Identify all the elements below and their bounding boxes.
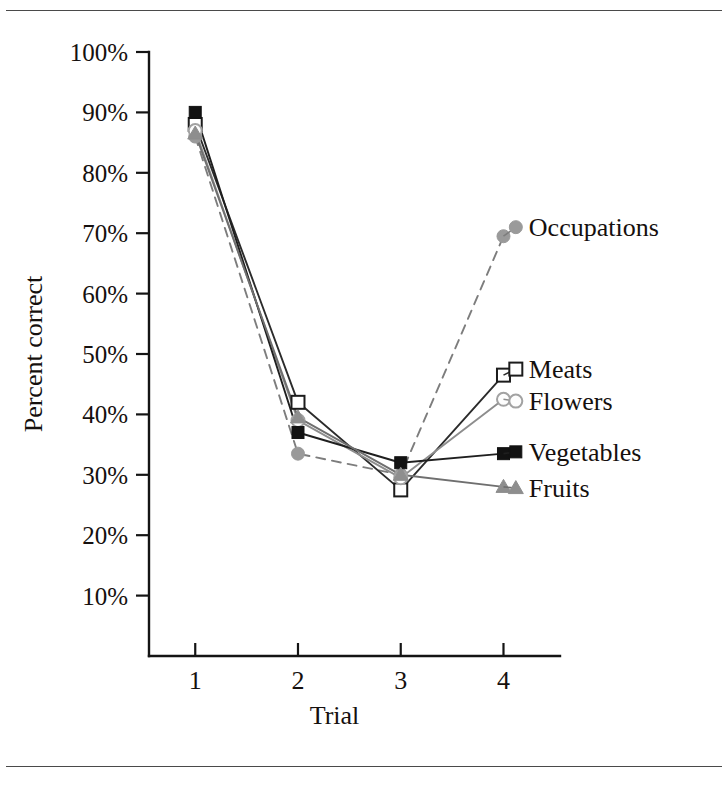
line-chart: Percent correct Trial 10%20%30%40%50%60%… bbox=[0, 14, 728, 762]
series-label-vegetables: Vegetables bbox=[529, 438, 642, 467]
legend-marker-vegetables bbox=[510, 446, 522, 458]
y-axis-title: Percent correct bbox=[19, 275, 48, 432]
x-axis-title: Trial bbox=[310, 701, 360, 730]
x-tick-label: 2 bbox=[291, 666, 304, 695]
series-leader-lines-group bbox=[503, 221, 523, 494]
y-tick-label: 100% bbox=[70, 39, 128, 66]
data-point-vegetables-trial2 bbox=[292, 427, 304, 439]
x-tick-label: 4 bbox=[497, 666, 510, 695]
legend-marker-flowers bbox=[509, 395, 522, 408]
data-point-occupations-trial2 bbox=[291, 447, 304, 460]
data-point-meats-trial2 bbox=[291, 396, 304, 409]
series-label-meats: Meats bbox=[529, 355, 593, 384]
y-tick-label: 20% bbox=[82, 522, 128, 549]
series-label-fruits: Fruits bbox=[529, 474, 590, 503]
y-axis-ticks: 10%20%30%40%50%60%70%80%90%100% bbox=[70, 39, 149, 610]
legend-marker-meats bbox=[509, 363, 522, 376]
series-line-occupations bbox=[195, 137, 503, 475]
x-axis-ticks: 1234 bbox=[189, 643, 510, 695]
figure-container: Percent correct Trial 10%20%30%40%50%60%… bbox=[0, 0, 728, 785]
y-tick-label: 80% bbox=[82, 160, 128, 187]
series-labels-group: OccupationsMeatsFlowersVegetablesFruits bbox=[529, 213, 659, 503]
y-tick-label: 70% bbox=[82, 220, 128, 247]
bottom-horizontal-rule bbox=[6, 766, 722, 767]
x-tick-label: 3 bbox=[394, 666, 407, 695]
series-lines-group bbox=[195, 112, 503, 490]
data-point-vegetables-trial1 bbox=[189, 106, 201, 118]
y-tick-label: 60% bbox=[82, 281, 128, 308]
y-tick-label: 30% bbox=[82, 462, 128, 489]
series-line-vegetables bbox=[195, 112, 503, 462]
data-point-meats-trial3 bbox=[394, 483, 407, 496]
series-markers-group bbox=[188, 106, 511, 496]
y-tick-label: 50% bbox=[82, 341, 128, 368]
legend-marker-occupations bbox=[509, 221, 522, 234]
y-tick-label: 40% bbox=[82, 401, 128, 428]
y-tick-label: 10% bbox=[82, 583, 128, 610]
x-tick-label: 1 bbox=[189, 666, 202, 695]
series-label-flowers: Flowers bbox=[529, 387, 613, 416]
series-label-occupations: Occupations bbox=[529, 213, 659, 242]
top-horizontal-rule bbox=[6, 10, 722, 11]
y-tick-label: 90% bbox=[82, 99, 128, 126]
